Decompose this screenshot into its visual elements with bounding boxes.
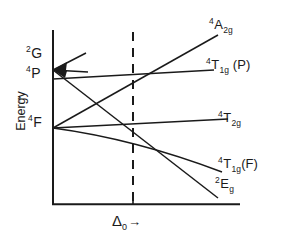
state-symbol: T (223, 110, 231, 125)
state-subscript: 2g (231, 118, 241, 128)
state-symbol: T (223, 156, 231, 171)
state-subscript: 1g (231, 164, 241, 174)
state-subscript: g (229, 184, 234, 194)
plot-area (0, 0, 292, 243)
term-symbol: G (31, 45, 42, 61)
state-label-t2g: 4T2g (218, 111, 241, 124)
curve-t1g-f (53, 128, 222, 172)
term-symbol: F (33, 114, 42, 130)
state-subscript: 2g (223, 25, 233, 35)
curve-eg (53, 70, 218, 198)
state-label-t1g-p: 4T1g (P) (206, 58, 250, 71)
x-axis-symbol: Δ (112, 212, 122, 229)
state-symbol: A (214, 17, 223, 32)
x-axis-title: Δ0→ (112, 212, 141, 229)
orgel-diagram-figure: → Energy Δ0→ 2G 4P 4F 4A2g 4T1g (P) 4T2g… (0, 0, 292, 243)
term-label-4p: 4P (26, 66, 41, 80)
state-suffix: (F) (241, 156, 258, 171)
term-label-4f: 4F (28, 115, 42, 129)
curve-a2g (53, 35, 218, 128)
curve-t2g (53, 119, 228, 128)
x-axis-subscript: 0 (122, 222, 127, 232)
arrowhead-upper-icon (53, 62, 67, 70)
state-symbol: T (211, 57, 219, 72)
state-suffix: (P) (229, 57, 250, 72)
term-label-2g: 2G (26, 46, 42, 60)
term-symbol: P (31, 65, 40, 81)
state-subscript: 1g (219, 65, 229, 75)
state-symbol: E (220, 176, 229, 191)
x-axis-arrow-icon: → (128, 214, 141, 229)
state-label-a2g: 4A2g (209, 18, 233, 31)
arrowhead-lower-icon (53, 70, 67, 78)
state-label-t1g-f: 4T1g(F) (218, 157, 258, 170)
state-label-eg: 2Eg (215, 177, 234, 190)
y-axis-title: Energy (14, 68, 28, 154)
